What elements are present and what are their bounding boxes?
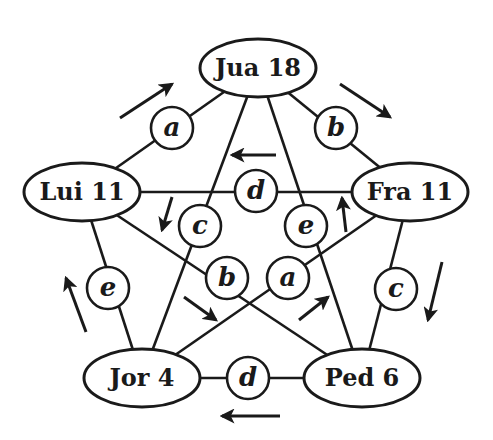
edge-label-text: a (164, 112, 181, 142)
edge-label-text: e (298, 210, 315, 240)
edge-label-lui-fra: d (235, 170, 277, 212)
node-ped: Ped 6 (304, 349, 420, 407)
node-label: Jor 4 (107, 363, 174, 392)
arrow-jor-to-lui-icon (66, 278, 86, 332)
arrow-lui-to-ped-inner-icon (184, 297, 216, 320)
edge-label-fra-ped: c (375, 268, 417, 310)
edge-label-text: d (247, 175, 265, 205)
node-label: Lui 11 (39, 177, 124, 206)
edge-label-text: e (100, 272, 117, 302)
edge-label-text: c (388, 273, 404, 303)
arrow-down-left-inner-icon (162, 197, 172, 230)
edge-label-jor-ped: d (227, 357, 269, 399)
arrow-fra-to-ped-icon (428, 262, 442, 320)
node-lui: Lui 11 (24, 163, 140, 221)
edge-label-text: c (192, 210, 208, 240)
node-jor: Jor 4 (84, 349, 200, 407)
graph-diagram: abdcebaecd Jua 18Lui 11Fra 11Jor 4Ped 6 (0, 0, 493, 440)
edge-label-jua-jor: c (179, 205, 221, 247)
edge-label-text: d (239, 362, 257, 392)
node-fra: Fra 11 (352, 163, 468, 221)
edges-layer (82, 68, 410, 378)
edge-label-jua-lui: a (151, 107, 193, 149)
edge-label-jua-ped: e (285, 205, 327, 247)
edge-label-text: b (327, 112, 345, 142)
arrow-jor-to-fra-inner-icon (299, 297, 328, 320)
edge-label-text: b (218, 262, 236, 292)
edge-label-lui-jor: e (87, 267, 129, 309)
edge-label-lui-ped: b (206, 257, 248, 299)
arrow-up-right-inner-icon (342, 198, 346, 232)
edge-label-jua-fra: b (315, 107, 357, 149)
edge-label-fra-jor: a (267, 257, 309, 299)
node-label: Ped 6 (325, 363, 400, 392)
node-jua: Jua 18 (200, 39, 316, 97)
edge-label-text: a (280, 262, 297, 292)
node-label: Fra 11 (367, 177, 454, 206)
node-label: Jua 18 (213, 53, 301, 82)
